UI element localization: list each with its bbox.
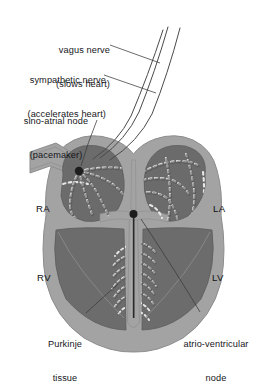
callout-purkinje-tissue-line1: Purkinje	[36, 339, 94, 350]
av-node-marker	[130, 210, 138, 218]
chamber-label-left-atrium: LA	[213, 203, 226, 214]
chamber-label-right-atrium: RA	[36, 203, 50, 214]
callout-purkinje-tissue: Purkinje tissue	[36, 316, 94, 385]
callout-sino-atrial-node: sino-atrial node (pacemaker)	[12, 93, 100, 184]
callout-atrio-ventricular-node: atrio-ventricular node	[168, 316, 264, 385]
callout-purkinje-tissue-line2: tissue	[36, 373, 94, 384]
bundle-of-his	[132, 216, 133, 318]
callout-atrio-ventricular-node-line2: node	[168, 373, 264, 384]
callout-sino-atrial-node-line2: (pacemaker)	[12, 150, 100, 161]
callout-sympathetic-nerve-line1: sympathetic nerve	[2, 75, 106, 86]
chamber-label-right-ventricle: RV	[37, 272, 51, 283]
callout-sino-atrial-node-line1: sino-atrial node	[12, 116, 100, 127]
callout-atrio-ventricular-node-line1: atrio-ventricular	[168, 339, 264, 350]
chamber-label-left-ventricle: LV	[212, 272, 224, 283]
